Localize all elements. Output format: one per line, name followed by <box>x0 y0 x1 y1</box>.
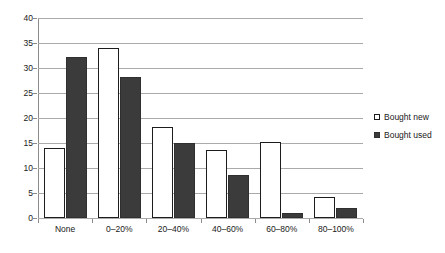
y-tick-label: 25 <box>3 88 33 98</box>
legend-label: Bought used <box>384 130 432 140</box>
x-tick-label: 80–100% <box>318 224 354 234</box>
bar-group <box>146 18 200 218</box>
bar-group <box>92 18 146 218</box>
y-tick-mark <box>33 93 37 94</box>
y-tick-mark <box>33 43 37 44</box>
bar-bought-new[interactable] <box>152 127 173 219</box>
bar-bought-used[interactable] <box>336 208 357 218</box>
x-axis: None0–20%20–40%40–60%60–80%80–100% <box>38 224 363 244</box>
bar-bought-used[interactable] <box>228 175 249 219</box>
y-tick-label: 0 <box>3 213 33 223</box>
bar-bought-used[interactable] <box>174 143 195 218</box>
y-tick-mark <box>33 68 37 69</box>
hollow-square-icon <box>374 114 380 120</box>
y-tick-mark <box>33 118 37 119</box>
y-tick-mark <box>33 143 37 144</box>
x-tick-mark <box>255 219 256 223</box>
bar-group <box>201 18 255 218</box>
y-tick-mark <box>33 168 37 169</box>
legend-label: Bought new <box>384 112 429 122</box>
y-axis: 0510152025303540 <box>0 18 33 219</box>
y-tick-mark <box>33 193 37 194</box>
bar-bought-new[interactable] <box>206 150 227 219</box>
bar-bought-new[interactable] <box>44 148 65 219</box>
chart-legend: Bought new Bought used <box>374 112 442 148</box>
x-tick-label: 20–40% <box>158 224 189 234</box>
y-tick-label: 10 <box>3 163 33 173</box>
x-tick-label: 0–20% <box>106 224 132 234</box>
bar-bought-used[interactable] <box>282 213 303 218</box>
bar-bought-new[interactable] <box>98 48 119 219</box>
x-tick-label: 40–60% <box>212 224 243 234</box>
bar-group <box>38 18 92 218</box>
x-tick-mark <box>38 219 39 223</box>
x-tick-mark <box>363 219 364 223</box>
y-tick-label: 35 <box>3 38 33 48</box>
x-tick-label: 60–80% <box>266 224 297 234</box>
bar-bought-new[interactable] <box>314 197 335 218</box>
y-tick-label: 20 <box>3 113 33 123</box>
y-tick-mark <box>33 218 37 219</box>
y-tick-label: 5 <box>3 188 33 198</box>
y-tick-label: 15 <box>3 138 33 148</box>
x-tick-label: None <box>55 224 75 234</box>
bar-chart: 0510152025303540 None0–20%20–40%40–60%60… <box>0 0 445 253</box>
x-tick-mark <box>146 219 147 223</box>
bars-layer <box>38 18 363 219</box>
bar-group <box>309 18 363 218</box>
bar-bought-used[interactable] <box>120 77 141 218</box>
y-tick-mark <box>33 18 37 19</box>
legend-item-bought-new[interactable]: Bought new <box>374 112 442 122</box>
legend-item-bought-used[interactable]: Bought used <box>374 130 442 140</box>
bar-group <box>255 18 309 218</box>
bar-bought-new[interactable] <box>260 142 281 218</box>
filled-square-icon <box>374 132 380 138</box>
bar-bought-used[interactable] <box>66 57 87 218</box>
y-tick-label: 40 <box>3 13 33 23</box>
x-tick-mark <box>92 219 93 223</box>
x-tick-mark <box>309 219 310 223</box>
x-tick-mark <box>201 219 202 223</box>
y-tick-label: 30 <box>3 63 33 73</box>
